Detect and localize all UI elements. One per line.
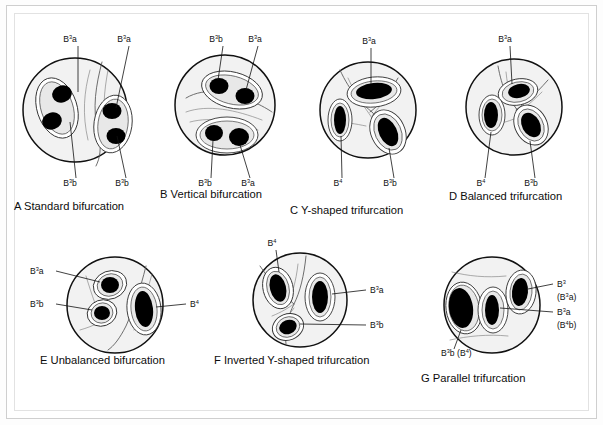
panel-e-orifice-2 [94, 306, 110, 320]
panel-e-label-1: B3a [30, 266, 44, 276]
panel-f-caption: F Inverted Y-shaped trifurcation [214, 354, 369, 366]
panel-d-orifice-2 [484, 102, 498, 128]
panel-e-label-2: B3b [30, 299, 44, 309]
panel-b-caption: B Vertical bifurcation [160, 188, 262, 200]
panel-g-label-2-alt: (B4b) [557, 320, 576, 330]
bronchial-pattern-diagram: B3a B3a B3b B3b A Standard bifurcation [0, 0, 603, 425]
panel-b-label-3: B3b [198, 178, 212, 188]
panel-e: B3a B3b B4 E Unbalanced bifurcation [30, 257, 199, 366]
panel-b-label-1: B3b [209, 34, 223, 44]
panel-a-label-1: B3a [63, 34, 77, 44]
panel-d-label-2: B4 [477, 178, 486, 188]
panel-f-label-1: B4 [268, 238, 277, 248]
panel-b-orifice-2 [236, 88, 255, 104]
panel-e-label-3: B4 [190, 299, 199, 309]
panel-d: B3a B4 B3b D Balanced trifurcation [449, 34, 562, 202]
panel-c-label-3: B3b [383, 178, 397, 188]
panel-a-orifice-3 [103, 103, 122, 119]
panel-g-label-1: B3 [557, 279, 566, 289]
panel-g-caption: G Parallel trifurcation [421, 372, 525, 384]
panel-g-label-3: B3b (B4) [441, 348, 472, 358]
panel-g-label-2: B3a [557, 307, 571, 317]
panel-g: B3 (B3a) B3a (B4b) B3b (B4) G Parallel t… [421, 257, 576, 384]
panel-g-label-1-alt: (B3a) [557, 292, 576, 302]
panel-a-orifice-4 [107, 128, 126, 144]
panel-a-label-4: B3b [115, 178, 129, 188]
panel-e-orifice-1 [101, 277, 119, 293]
panel-b: B3b B3a B3b B3a B Vertical bifurcation [160, 34, 275, 200]
panel-e-caption: E Unbalanced bifurcation [40, 354, 165, 366]
panel-d-label-3: B3b [524, 178, 538, 188]
panel-a: B3a B3a B3b B3b A Standard bifurcation [14, 34, 136, 212]
panel-a-label-3: B3b [63, 178, 77, 188]
panel-f: B4 B3a B3b F Inverted Y-shaped trifurcat… [214, 238, 384, 366]
panel-d-label-1: B3a [498, 34, 512, 44]
panel-b-label-4: B3a [241, 178, 255, 188]
panel-b-orifice-1 [210, 78, 229, 94]
panel-c-caption: C Y-shaped trifurcation [290, 204, 403, 216]
panel-f-orifice-2 [312, 281, 328, 313]
panel-d-caption: D Balanced trifurcation [449, 190, 562, 202]
panel-b-orifice-4 [229, 128, 249, 146]
panel-f-label-2: B3a [370, 285, 384, 295]
figure-root: B3a B3a B3b B3b A Standard bifurcation [0, 0, 603, 425]
panel-c-label-2: B4 [334, 178, 343, 188]
panel-c: B3a B4 B3b C Y-shaped trifurcation [290, 36, 416, 216]
panel-a-label-2: B3a [117, 34, 131, 44]
panel-g-orifice-2 [485, 295, 499, 325]
panel-b-orifice-3 [205, 125, 223, 141]
panel-c-orifice-2 [334, 106, 346, 134]
panel-b-label-2: B3a [248, 34, 262, 44]
panel-f-label-3: B3b [370, 320, 384, 330]
panel-c-label-1: B3a [362, 36, 376, 46]
panel-a-caption: A Standard bifurcation [14, 200, 124, 212]
